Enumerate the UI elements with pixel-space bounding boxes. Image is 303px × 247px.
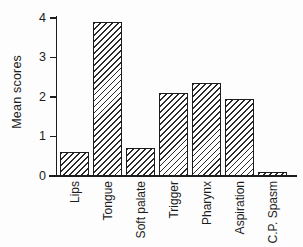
y-tick-mark-2	[50, 96, 57, 98]
y-tick-label-2: 2	[24, 91, 46, 104]
x-label-trigger: Trigger	[168, 181, 181, 219]
x-label-tongue: Tongue	[102, 181, 115, 220]
y-tick-mark-1	[50, 136, 57, 138]
y-tick-mark-4	[50, 17, 57, 19]
bar-trigger	[159, 93, 188, 176]
y-tick-label-4: 4	[24, 12, 46, 25]
y-tick-mark-3	[50, 57, 57, 59]
mean-scores-bar-chart: Mean scores 01234 LipsTongueSoft palateT…	[0, 0, 303, 247]
y-axis-title: Mean scores	[10, 55, 24, 129]
x-label-pharynx: Pharynx	[201, 181, 214, 225]
bar-aspiration	[225, 99, 254, 176]
y-tick-mark-0	[50, 175, 57, 177]
y-tick-label-3: 3	[24, 51, 46, 64]
x-label-c-p-spasm: C.P. Spasm	[267, 181, 280, 243]
y-tick-label-0: 0	[24, 170, 46, 183]
x-label-soft-palate: Soft palate	[135, 181, 148, 238]
bar-soft-palate	[126, 148, 155, 176]
bar-c-p-spasm	[258, 172, 287, 176]
bar-pharynx	[192, 83, 221, 176]
x-label-lips: Lips	[69, 181, 82, 203]
bar-lips	[60, 152, 89, 176]
x-label-aspiration: Aspiration	[234, 181, 247, 234]
bar-tongue	[93, 22, 122, 176]
y-tick-label-1: 1	[24, 130, 46, 143]
